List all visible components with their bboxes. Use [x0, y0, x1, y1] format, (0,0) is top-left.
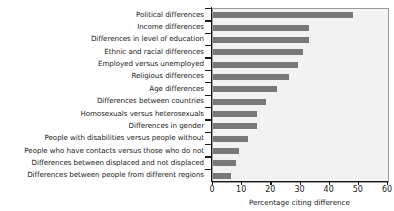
bar: [213, 74, 289, 80]
bar-row: [213, 133, 388, 145]
bar: [213, 111, 257, 117]
x-axis-tick-labels: 0102030405060: [212, 186, 387, 196]
bar-row: [213, 71, 388, 83]
x-axis-tick-label: 60: [382, 186, 392, 194]
category-label: Differences in gender: [0, 119, 208, 131]
category-label: Ethnic and racial differences: [0, 45, 208, 57]
x-axis-tick-label: 10: [236, 186, 246, 194]
category-label: Differences between countries: [0, 95, 208, 107]
plot-area: [212, 8, 389, 183]
x-axis-tick-label: 40: [324, 186, 334, 194]
bar-chart: Political differences Income differences…: [0, 0, 394, 211]
bar-row: [213, 120, 388, 132]
bar: [213, 62, 298, 68]
category-label: People with disabilities versus people w…: [0, 132, 208, 144]
bar-row: [213, 157, 388, 169]
bar: [213, 148, 239, 154]
category-label: People who have contacts versus those wh…: [0, 144, 208, 156]
category-label: Differences in level of education: [0, 33, 208, 45]
bar-row: [213, 108, 388, 120]
x-axis-tick-label: 20: [265, 186, 275, 194]
category-label: Religious differences: [0, 70, 208, 82]
x-axis-title: Percentage citing difference: [212, 199, 387, 206]
bar: [213, 37, 309, 43]
category-label: Age differences: [0, 82, 208, 94]
category-axis-labels: Political differences Income differences…: [0, 8, 208, 181]
bar: [213, 86, 277, 92]
category-label: Political differences: [0, 8, 208, 20]
bar-row: [213, 9, 388, 21]
bar: [213, 99, 266, 105]
category-label: Differences between displaced and not di…: [0, 156, 208, 168]
x-axis-tick-label: 0: [209, 186, 214, 194]
bar: [213, 123, 257, 129]
bar-row: [213, 46, 388, 58]
bar: [213, 12, 353, 18]
x-axis-tick-label: 30: [294, 186, 304, 194]
bar: [213, 25, 309, 31]
category-label: Homosexuals versus heterosexuals: [0, 107, 208, 119]
y-axis-line: [211, 7, 212, 182]
bar-row: [213, 58, 388, 70]
bar: [213, 136, 248, 142]
bar: [213, 49, 303, 55]
category-label: Employed versus unemployed: [0, 57, 208, 69]
category-label: Differences between people from differen…: [0, 169, 208, 181]
bar-row: [213, 96, 388, 108]
bar-row: [213, 21, 388, 33]
category-label: Income differences: [0, 20, 208, 32]
bar: [213, 173, 231, 179]
bar-row: [213, 34, 388, 46]
bar: [213, 160, 236, 166]
bar-row: [213, 83, 388, 95]
x-axis-tick-label: 50: [353, 186, 363, 194]
bar-row: [213, 145, 388, 157]
bars-layer: [213, 9, 388, 182]
